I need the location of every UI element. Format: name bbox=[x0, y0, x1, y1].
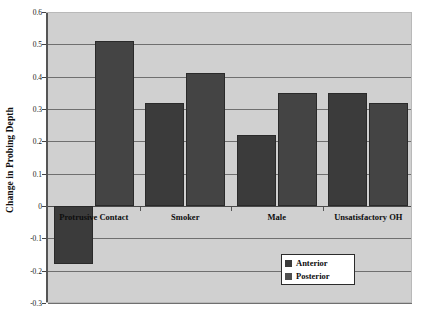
x-axis-tick-mark bbox=[231, 207, 232, 211]
y-axis-tick-label: -0.3 bbox=[18, 299, 42, 308]
x-axis-tick-mark bbox=[323, 207, 324, 211]
y-axis-tick-label: -0.2 bbox=[18, 266, 42, 275]
category-label: Smoker bbox=[171, 212, 199, 222]
bar-posterior-1 bbox=[186, 73, 225, 206]
gridline bbox=[48, 303, 412, 304]
bar-anterior-2 bbox=[237, 135, 276, 206]
x-axis-tick-mark bbox=[140, 207, 141, 211]
bar-chart: Change in Probing Depth 0.60.50.40.30.20… bbox=[0, 0, 422, 319]
legend-item-posterior: Posterior bbox=[285, 270, 351, 283]
bar-posterior-2 bbox=[278, 93, 317, 206]
bar-posterior-0 bbox=[95, 41, 134, 206]
legend-swatch-posterior bbox=[285, 273, 292, 280]
category-label: Protrusive Contact bbox=[59, 212, 128, 222]
y-axis-title-text: Change in Probing Depth bbox=[5, 107, 15, 213]
legend-item-anterior: Anterior bbox=[285, 257, 351, 270]
legend: Anterior Posterior bbox=[281, 254, 355, 285]
gridline bbox=[48, 12, 412, 13]
y-axis-title: Change in Probing Depth bbox=[0, 0, 20, 319]
y-axis-tick-label: 0.3 bbox=[18, 105, 42, 114]
legend-swatch-anterior bbox=[285, 260, 292, 267]
bar-anterior-3 bbox=[328, 93, 367, 206]
bar-anterior-1 bbox=[145, 103, 184, 206]
legend-label-posterior: Posterior bbox=[296, 272, 330, 281]
y-axis-tick-mark bbox=[42, 303, 46, 304]
y-axis-tick-label: 0.2 bbox=[18, 137, 42, 146]
gridline bbox=[48, 271, 412, 272]
y-axis-tick-label: 0.5 bbox=[18, 40, 42, 49]
category-label: Male bbox=[268, 212, 286, 222]
y-axis-tick-label: -0.1 bbox=[18, 234, 42, 243]
category-label: Unsatisfactory OH bbox=[334, 212, 402, 222]
y-axis-tick-label: 0.6 bbox=[18, 8, 42, 17]
plot-area: Protrusive ContactSmokerMaleUnsatisfacto… bbox=[46, 12, 412, 303]
gridline bbox=[48, 206, 412, 207]
y-axis-tick-label: 0.1 bbox=[18, 169, 42, 178]
y-axis-tick-label: 0 bbox=[18, 202, 42, 211]
y-axis-tick-label: 0.4 bbox=[18, 72, 42, 81]
bar-posterior-3 bbox=[369, 103, 408, 206]
gridline bbox=[48, 238, 412, 239]
legend-label-anterior: Anterior bbox=[296, 259, 328, 268]
